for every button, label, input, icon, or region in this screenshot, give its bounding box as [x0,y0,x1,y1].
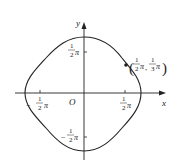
svg-text:1: 1 [69,127,73,135]
y-tick-pos-label: 1 2 π [68,42,80,59]
y-tick-neg-label: − 1 2 π [61,127,79,144]
svg-text:2: 2 [69,136,73,144]
svg-text:1: 1 [122,95,126,103]
svg-text:π: π [74,133,79,142]
diagram-canvas: y x O 1 2 π − 1 2 π − 1 2 π 1 2 π ( 1 2 … [0,0,176,168]
svg-text:,: , [145,63,147,72]
svg-text:π: π [44,101,49,110]
svg-text:1: 1 [38,95,42,103]
svg-text:2: 2 [135,65,139,73]
svg-text:−: − [61,133,66,142]
svg-text:π: π [75,48,80,57]
svg-text:): ) [162,60,167,77]
svg-text:2: 2 [70,51,74,59]
svg-text:2: 2 [122,104,126,112]
svg-text:π: π [156,62,161,71]
svg-text:π: π [127,101,132,110]
svg-text:3: 3 [151,65,155,73]
x-tick-pos-label: 1 2 π [120,95,132,112]
x-axis-arrow-icon [159,91,166,96]
closed-curve [25,37,141,151]
x-tick-neg-label: − 1 2 π [26,95,49,112]
svg-text:1: 1 [135,56,139,64]
svg-text:(: ( [129,60,134,77]
svg-text:−: − [26,101,31,110]
marked-point [124,63,128,67]
svg-text:1: 1 [70,42,74,50]
svg-text:1: 1 [151,56,155,64]
origin-label: O [69,97,76,107]
y-axis-label: y [75,18,80,28]
svg-text:2: 2 [38,104,42,112]
x-axis-label: x [161,98,166,108]
y-axis-arrow-icon [82,22,87,29]
